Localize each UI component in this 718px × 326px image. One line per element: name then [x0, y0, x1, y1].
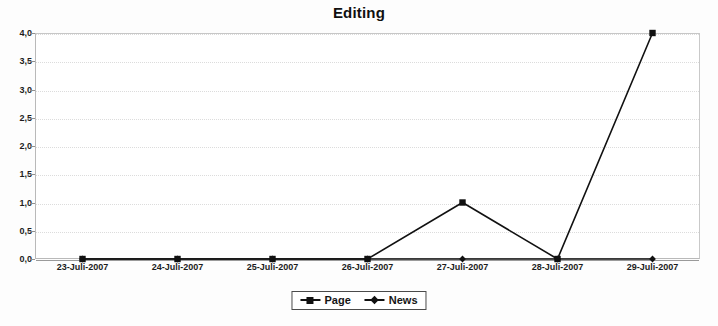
diamond-glyph-icon: [371, 296, 379, 304]
y-axis-tick-label: 2,5: [2, 113, 32, 123]
y-axis-tick-label: 1,0: [2, 198, 32, 208]
chart-legend: PageNews: [291, 291, 426, 310]
y-axis-tick-mark: [30, 90, 35, 91]
square-marker-icon: [300, 295, 320, 305]
y-axis-tick-label: 0,0: [2, 254, 32, 264]
legend-entry-news[interactable]: News: [365, 294, 418, 306]
y-axis-tick-label: 3,0: [2, 85, 32, 95]
legend-label: News: [389, 294, 418, 306]
data-point-page: [649, 30, 655, 36]
y-axis-tick-mark: [30, 118, 35, 119]
y-axis-tick-label: 0,5: [2, 226, 32, 236]
data-point-page: [459, 199, 465, 205]
y-axis-tick-mark: [30, 33, 35, 34]
diamond-marker-icon: [365, 295, 385, 305]
x-axis-tick-label: 23-Juli-2007: [57, 262, 109, 272]
x-axis-tick-label: 25-Juli-2007: [247, 262, 299, 272]
y-axis-tick-mark: [30, 203, 35, 204]
x-axis-tick-label: 27-Juli-2007: [437, 262, 489, 272]
x-axis-tick-label: 24-Juli-2007: [152, 262, 204, 272]
x-axis-tick-label: 29-Juli-2007: [627, 262, 679, 272]
chart-title: Editing: [0, 4, 718, 21]
y-axis-tick-label: 4,0: [2, 28, 32, 38]
y-axis-tick-label: 2,0: [2, 141, 32, 151]
y-axis-tick-label: 3,5: [2, 56, 32, 66]
y-axis-tick-mark: [30, 61, 35, 62]
square-glyph-icon: [306, 297, 313, 304]
chart-container: Editing PageNews 0,00,51,01,52,02,53,03,…: [0, 0, 718, 326]
y-axis-tick-label: 1,5: [2, 169, 32, 179]
y-axis-tick-mark: [30, 146, 35, 147]
legend-label: Page: [324, 294, 350, 306]
legend-entry-page[interactable]: Page: [300, 294, 350, 306]
y-axis-tick-mark: [30, 174, 35, 175]
x-axis-tick-label: 28-Juli-2007: [532, 262, 584, 272]
series-line-page: [83, 33, 653, 259]
series-layer: [35, 33, 700, 259]
y-axis-tick-mark: [30, 259, 35, 260]
x-axis-tick-label: 26-Juli-2007: [342, 262, 394, 272]
y-axis-tick-mark: [30, 231, 35, 232]
